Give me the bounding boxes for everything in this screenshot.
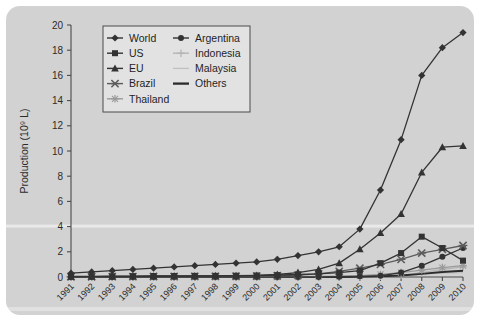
marker-square bbox=[419, 234, 425, 240]
marker-diamond bbox=[150, 265, 157, 272]
x-tick-label: 1998 bbox=[199, 281, 220, 302]
x-tick-label: 2000 bbox=[240, 281, 261, 302]
legend-label: Argentina bbox=[195, 32, 240, 44]
marker-star bbox=[439, 264, 447, 272]
y-tick-label: 14 bbox=[52, 95, 64, 106]
series-eu bbox=[67, 142, 467, 280]
marker-square bbox=[460, 258, 466, 264]
legend-label: Malaysia bbox=[195, 62, 237, 74]
marker-circle bbox=[357, 273, 363, 279]
y-tick-label: 4 bbox=[57, 221, 63, 232]
x-tick-label: 2009 bbox=[426, 281, 447, 302]
legend-label: EU bbox=[129, 62, 144, 74]
marker-circle bbox=[377, 273, 383, 279]
marker-square bbox=[357, 268, 363, 274]
chart-svg: 02468101214161820Production (10⁹ L)19911… bbox=[0, 0, 480, 321]
marker-diamond bbox=[398, 136, 405, 143]
legend-label: Indonesia bbox=[195, 47, 241, 59]
marker-star bbox=[111, 95, 119, 103]
legend-label: Others bbox=[195, 77, 227, 89]
marker-diamond bbox=[129, 266, 136, 273]
y-tick-label: 18 bbox=[52, 45, 64, 56]
legend-label: World bbox=[129, 32, 156, 44]
marker-diamond bbox=[212, 261, 219, 268]
marker-triangle bbox=[356, 245, 364, 252]
y-axis-label: Production (10⁹ L) bbox=[18, 108, 30, 193]
marker-square bbox=[336, 270, 342, 276]
marker-triangle bbox=[397, 210, 405, 217]
chart-figure: 02468101214161820Production (10⁹ L)19911… bbox=[0, 0, 480, 321]
y-tick-label: 20 bbox=[52, 20, 64, 31]
x-tick-label: 1993 bbox=[96, 281, 117, 302]
marker-diamond bbox=[191, 262, 198, 269]
x-tick-label: 2007 bbox=[385, 281, 406, 302]
x-tick-label: 2003 bbox=[302, 281, 323, 302]
marker-square bbox=[377, 260, 383, 266]
legend-label: Brazil bbox=[129, 77, 155, 89]
marker-diamond bbox=[171, 263, 178, 270]
chart-legend: WorldUSEUBrazilThailandArgentinaIndonesi… bbox=[103, 26, 250, 112]
marker-diamond bbox=[377, 186, 384, 193]
x-tick-label: 2001 bbox=[261, 281, 282, 302]
x-tick-label: 2010 bbox=[447, 281, 468, 302]
marker-diamond bbox=[232, 260, 239, 267]
plot-area: 02468101214161820Production (10⁹ L)19911… bbox=[0, 0, 480, 321]
x-tick-label: 1991 bbox=[55, 281, 76, 302]
marker-circle bbox=[398, 270, 404, 276]
marker-cross bbox=[417, 249, 426, 256]
marker-circle bbox=[439, 254, 445, 260]
x-tick-label: 1999 bbox=[220, 281, 241, 302]
highlight-band bbox=[0, 225, 480, 228]
y-tick-label: 16 bbox=[52, 70, 64, 81]
x-tick-label: 1997 bbox=[178, 281, 199, 302]
marker-diamond bbox=[253, 258, 260, 265]
marker-circle bbox=[419, 263, 425, 269]
y-tick-label: 8 bbox=[57, 171, 63, 182]
x-tick-label: 2004 bbox=[323, 281, 344, 302]
highlight-band-2 bbox=[0, 307, 480, 311]
y-tick-label: 2 bbox=[57, 246, 63, 257]
marker-square bbox=[439, 245, 445, 251]
marker-diamond bbox=[315, 248, 322, 255]
y-tick-label: 0 bbox=[57, 272, 63, 283]
marker-circle bbox=[178, 35, 184, 41]
marker-cross bbox=[397, 256, 406, 263]
x-tick-label: 2006 bbox=[364, 281, 385, 302]
x-tick-label: 1994 bbox=[117, 281, 138, 302]
marker-square bbox=[398, 250, 404, 256]
x-tick-label: 1992 bbox=[75, 281, 96, 302]
legend-label: US bbox=[129, 47, 144, 59]
legend-label: Thailand bbox=[129, 93, 169, 105]
y-tick-label: 12 bbox=[52, 120, 64, 131]
y-tick-label: 6 bbox=[57, 196, 63, 207]
x-tick-label: 1995 bbox=[137, 281, 158, 302]
x-tick-label: 2008 bbox=[405, 281, 426, 302]
marker-diamond bbox=[274, 256, 281, 263]
marker-triangle bbox=[459, 142, 467, 149]
marker-diamond bbox=[294, 252, 301, 259]
y-tick-label: 10 bbox=[52, 146, 64, 157]
x-tick-label: 2005 bbox=[344, 281, 365, 302]
x-tick-label: 1996 bbox=[158, 281, 179, 302]
marker-triangle bbox=[335, 259, 343, 266]
x-tick-label: 2002 bbox=[282, 281, 303, 302]
marker-square bbox=[112, 50, 118, 56]
